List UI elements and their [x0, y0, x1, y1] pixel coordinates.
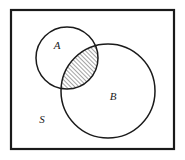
set-a-label: A	[53, 39, 61, 51]
universal-set-label: S	[39, 113, 45, 125]
venn-diagram-figure: A B S	[0, 0, 185, 160]
venn-diagram-canvas: A B S	[0, 0, 185, 160]
set-b-label: B	[110, 90, 117, 102]
